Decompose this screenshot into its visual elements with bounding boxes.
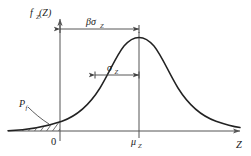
y-axis-label-base: f [30, 7, 34, 18]
mean-label-subscript: Z [138, 142, 142, 149]
failure-probability-region [4, 118, 80, 140]
sigma-label-subscript: Z [115, 68, 119, 75]
failure-probability-label: P f [18, 98, 29, 111]
density-curve [8, 37, 240, 130]
origin-label: 0 [51, 136, 56, 147]
failure-probability-label-base: P [18, 98, 25, 109]
mean-label: μ Z [130, 136, 142, 149]
y-axis-label-argument: (Z) [39, 7, 52, 19]
normal-distribution-figure: f Z (Z) βσ Z σ Z P f 0 μ Z Z [0, 0, 251, 156]
failure-probability-leader [28, 107, 49, 124]
y-axis-label: f Z (Z) [30, 7, 52, 20]
beta-sigma-label-subscript: Z [100, 22, 104, 29]
sigma-label-base: σ [107, 62, 113, 73]
beta-sigma-label: βσ Z [85, 16, 104, 29]
beta-sigma-label-base: βσ [85, 16, 97, 27]
x-axis-label: Z [236, 139, 242, 150]
mean-label-base: μ [130, 136, 136, 147]
figure-container: f Z (Z) βσ Z σ Z P f 0 μ Z Z [0, 0, 251, 156]
